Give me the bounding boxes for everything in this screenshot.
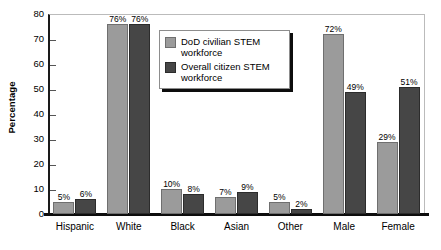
bar-group: 72%49% bbox=[323, 14, 366, 214]
y-axis-tick-label: 10 bbox=[20, 184, 44, 194]
bar-value-label: 8% bbox=[187, 184, 199, 194]
bar-value-label: 5% bbox=[273, 192, 285, 202]
x-axis-tick-label: Asian bbox=[224, 220, 249, 233]
bar-value-label: 76% bbox=[109, 14, 126, 24]
bar-value-label: 6% bbox=[80, 189, 92, 199]
bar[interactable]: 7% bbox=[215, 197, 236, 215]
y-axis-tick-label: 70 bbox=[20, 34, 44, 44]
bar-value-label: 49% bbox=[347, 82, 364, 92]
bar[interactable]: 72% bbox=[323, 34, 344, 214]
bar-value-label: 72% bbox=[325, 24, 342, 34]
bar[interactable]: 5% bbox=[53, 202, 74, 215]
bar-value-label: 5% bbox=[58, 192, 70, 202]
x-axis-tick-label: White bbox=[116, 220, 142, 233]
x-axis-tick-label: Black bbox=[170, 220, 194, 233]
bar-value-label: 76% bbox=[131, 14, 148, 24]
bar-group: 5%6% bbox=[53, 14, 96, 214]
bar[interactable]: 76% bbox=[107, 24, 128, 214]
y-axis-tick-label: 60 bbox=[20, 59, 44, 69]
x-axis-tick-labels: HispanicWhiteBlackAsianOtherMaleFemale bbox=[48, 220, 425, 240]
chart-legend: DoD civilian STEM workforceOverall citiz… bbox=[159, 30, 290, 89]
legend-item[interactable]: Overall citizen STEM workforce bbox=[165, 61, 283, 83]
bar[interactable]: 9% bbox=[237, 192, 258, 215]
bar-group: 76%76% bbox=[107, 14, 150, 214]
y-axis-tick-labels: 01020304050607080 bbox=[20, 14, 44, 214]
legend-item-label: Overall citizen STEM workforce bbox=[181, 61, 283, 83]
y-axis-tick-label: 50 bbox=[20, 84, 44, 94]
y-axis-tick-label: 0 bbox=[20, 209, 44, 219]
bar-value-label: 7% bbox=[219, 187, 231, 197]
x-axis-tick-label: Female bbox=[381, 220, 414, 233]
bar-value-label: 9% bbox=[241, 182, 253, 192]
bar[interactable]: 5% bbox=[269, 202, 290, 215]
bar[interactable]: 51% bbox=[399, 87, 420, 215]
bar[interactable]: 10% bbox=[161, 189, 182, 214]
bar[interactable]: 76% bbox=[129, 24, 150, 214]
legend-color-swatch bbox=[165, 37, 176, 48]
legend-color-swatch bbox=[165, 62, 176, 73]
bar-value-label: 2% bbox=[295, 199, 307, 209]
bar[interactable]: 6% bbox=[75, 199, 96, 214]
bar[interactable]: 29% bbox=[377, 142, 398, 215]
legend-item-label: DoD civilian STEM workforce bbox=[181, 36, 283, 58]
y-axis-tick-label: 80 bbox=[20, 9, 44, 19]
bar-chart: Percentage 01020304050607080 5%6%76%76%1… bbox=[0, 0, 441, 250]
bar-group: 29%51% bbox=[377, 14, 420, 214]
bar-value-label: 51% bbox=[401, 77, 418, 87]
bar[interactable]: 8% bbox=[183, 194, 204, 214]
y-axis-tick-label: 20 bbox=[20, 159, 44, 169]
y-axis-tick-label: 30 bbox=[20, 134, 44, 144]
x-axis-tick-label: Hispanic bbox=[56, 220, 94, 233]
y-axis-title: Percentage bbox=[2, 0, 20, 215]
bar[interactable]: 2% bbox=[291, 209, 312, 214]
y-axis-title-text: Percentage bbox=[6, 81, 17, 133]
bar-value-label: 10% bbox=[163, 179, 180, 189]
bar-value-label: 29% bbox=[379, 132, 396, 142]
x-axis-tick-label: Other bbox=[278, 220, 303, 233]
y-axis-tick-label: 40 bbox=[20, 109, 44, 119]
x-axis-tick-label: Male bbox=[333, 220, 355, 233]
bar[interactable]: 49% bbox=[345, 92, 366, 215]
legend-item[interactable]: DoD civilian STEM workforce bbox=[165, 36, 283, 58]
